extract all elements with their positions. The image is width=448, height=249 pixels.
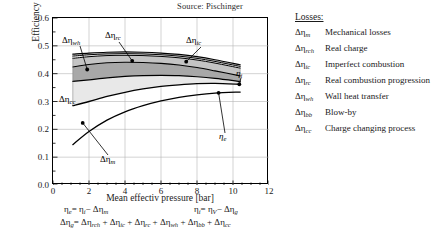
legend-symbol: Δηm bbox=[295, 27, 325, 39]
callout-label-rc: Δηrc bbox=[105, 30, 121, 40]
legend-symbol: Δηrc bbox=[295, 75, 325, 87]
legend-symbol: Δηic bbox=[295, 59, 325, 71]
y-tick-label: 0.0 bbox=[38, 180, 49, 190]
legend-item: ΔηccCharge changing process bbox=[295, 123, 445, 135]
legend-label: Wall heat transfer bbox=[325, 91, 445, 102]
chart-canvas bbox=[53, 18, 269, 185]
legend-symbol: Δηrch bbox=[295, 43, 325, 55]
y-tick-label: 0.1 bbox=[38, 152, 49, 162]
callout-label-ic: Δηic bbox=[186, 35, 201, 45]
legend-symbol: Δηcc bbox=[295, 123, 325, 135]
legend-item: ΔηwhWall heat transfer bbox=[295, 91, 445, 103]
source-note: Source: Pischinger bbox=[150, 1, 270, 11]
legend-label: Real charge bbox=[325, 43, 445, 54]
figure-root: Source: Pischinger Efficiency [-] 0.00.1… bbox=[0, 0, 448, 249]
x-axis-label: Mean effectiv pressure [bar] bbox=[52, 193, 268, 203]
equation-delta-eta-g: Δηg= Δηrch + Δηic + Δηrc + Δηwh + Δηbb +… bbox=[60, 216, 231, 229]
y-tick-label: 0.6 bbox=[38, 13, 49, 23]
legend-label: Real combustion progression bbox=[325, 75, 445, 86]
legend-label: Charge changing process bbox=[325, 123, 445, 134]
callout-label-eta-e: ηe bbox=[219, 131, 226, 141]
legend-item: ΔηrchReal charge bbox=[295, 43, 445, 55]
legend-item: ΔηbbBlow-by bbox=[295, 107, 445, 119]
y-tick-label: 0.5 bbox=[38, 41, 49, 51]
legend-symbol: Δηbb bbox=[295, 107, 325, 119]
legend-item: ΔηicImperfect combustion bbox=[295, 59, 445, 71]
callout-label-cc: Δηcc bbox=[59, 94, 75, 104]
legend-label: Mechanical losses bbox=[325, 27, 445, 38]
legend-rows: ΔηmMechanical lossesΔηrchReal chargeΔηic… bbox=[295, 27, 445, 135]
callout-label-wh: Δηwh bbox=[62, 35, 80, 45]
legend-symbol: Δηwh bbox=[295, 91, 325, 103]
legend: Losses: ΔηmMechanical lossesΔηrchReal ch… bbox=[295, 12, 445, 139]
equations-block: ηe= ηi− Δηm ηi= ηV− Δηg Δηg= Δηrch + Δηi… bbox=[46, 203, 296, 216]
y-tick-label: 0.4 bbox=[38, 69, 49, 79]
equation-eta-e: ηe= ηi− Δηm bbox=[64, 203, 108, 216]
y-axis-label: Efficiency [-] bbox=[31, 0, 41, 76]
legend-item: ΔηrcReal combustion progression bbox=[295, 75, 445, 87]
y-tick-label: 0.2 bbox=[38, 124, 49, 134]
legend-item: ΔηmMechanical losses bbox=[295, 27, 445, 39]
y-tick-label: 0.3 bbox=[38, 97, 49, 107]
callout-label-eta-i: ηi bbox=[236, 68, 242, 78]
legend-label: Imperfect combustion bbox=[325, 59, 445, 70]
callout-label-m: Δηm bbox=[100, 154, 115, 164]
legend-label: Blow-by bbox=[325, 107, 445, 118]
chart-plot-area: Efficiency [-] 0.00.10.20.30.40.50.6 024… bbox=[52, 17, 268, 184]
legend-title: Losses: bbox=[295, 12, 445, 22]
equation-eta-i: ηi= ηV− Δηg bbox=[194, 203, 238, 216]
